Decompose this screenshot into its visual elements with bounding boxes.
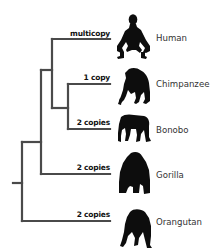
gorilla-silhouette-icon	[119, 152, 150, 194]
copy-label-gorilla: 2 copies	[50, 163, 110, 172]
phylogenetic-tree-figure: multicopy 1 copy 2 copies 2 copies 2 cop…	[0, 0, 218, 250]
species-label-orangutan: Orangutan	[156, 217, 202, 227]
bonobo-silhouette-icon	[118, 114, 151, 142]
copy-label-chimpanzee: 1 copy	[50, 73, 110, 82]
species-label-human: Human	[156, 33, 187, 43]
copy-label-human: multicopy	[50, 29, 110, 38]
copy-label-orangutan: 2 copies	[50, 210, 110, 219]
orangutan-silhouette-icon	[120, 209, 152, 248]
species-label-bonobo: Bonobo	[156, 125, 189, 135]
species-label-gorilla: Gorilla	[156, 170, 184, 180]
species-label-chimpanzee: Chimpanzee	[156, 79, 209, 89]
copy-label-bonobo: 2 copies	[50, 118, 110, 127]
human-squatting-silhouette-icon	[117, 14, 150, 59]
chimpanzee-silhouette-icon	[118, 68, 150, 105]
